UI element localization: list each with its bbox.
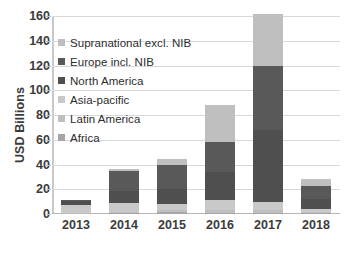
y-tick-mark bbox=[46, 115, 51, 116]
stacked-bar[interactable] bbox=[301, 179, 331, 214]
chart-legend: Supranational excl. NIBEurope incl. NIBN… bbox=[58, 34, 191, 146]
legend-swatch-icon bbox=[58, 96, 65, 103]
x-tick-label: 2014 bbox=[110, 218, 138, 232]
x-tick-label: 2017 bbox=[254, 218, 282, 232]
legend-label: Europe incl. NIB bbox=[70, 56, 154, 68]
bar-segment[interactable] bbox=[253, 202, 283, 211]
y-tick-mark bbox=[46, 16, 51, 17]
bar-segment[interactable] bbox=[301, 186, 331, 200]
y-tick-mark bbox=[46, 214, 51, 215]
legend-swatch-icon bbox=[58, 58, 65, 65]
bar-segment[interactable] bbox=[253, 213, 283, 214]
bar-segment[interactable] bbox=[205, 105, 235, 142]
bar-segment[interactable] bbox=[301, 213, 331, 214]
legend-swatch-icon bbox=[58, 39, 65, 46]
y-tick-mark bbox=[46, 189, 51, 190]
stacked-bar[interactable] bbox=[109, 169, 139, 214]
bar-segment[interactable] bbox=[301, 199, 331, 209]
bar-segment[interactable] bbox=[205, 172, 235, 200]
bar-segment[interactable] bbox=[157, 165, 187, 190]
x-axis-tick-labels: 201320142015201620172018 bbox=[52, 218, 340, 238]
x-tick-label: 2016 bbox=[206, 218, 234, 232]
legend-swatch-icon bbox=[58, 77, 65, 84]
bar-slot bbox=[292, 16, 340, 214]
bar-segment[interactable] bbox=[109, 191, 139, 203]
legend-item-1[interactable]: Europe incl. NIB bbox=[58, 53, 191, 70]
bar-segment[interactable] bbox=[205, 200, 235, 210]
legend-label: Latin America bbox=[70, 113, 140, 125]
legend-item-3[interactable]: Asia-pacific bbox=[58, 91, 191, 108]
legend-item-0[interactable]: Supranational excl. NIB bbox=[58, 34, 191, 51]
x-tick-label: 2018 bbox=[302, 218, 330, 232]
bar-segment[interactable] bbox=[109, 203, 139, 212]
legend-item-2[interactable]: North America bbox=[58, 72, 191, 89]
legend-item-5[interactable]: Africa bbox=[58, 129, 191, 146]
y-tick-mark bbox=[46, 90, 51, 91]
x-tick-label: 2013 bbox=[62, 218, 90, 232]
stacked-bar[interactable] bbox=[253, 14, 283, 214]
x-tick-label: 2015 bbox=[158, 218, 186, 232]
bar-segment[interactable] bbox=[61, 213, 91, 214]
y-tick-mark bbox=[46, 66, 51, 67]
y-tick-mark bbox=[46, 41, 51, 42]
bar-segment[interactable] bbox=[205, 213, 235, 214]
bar-segment[interactable] bbox=[109, 213, 139, 214]
legend-swatch-icon bbox=[58, 115, 65, 122]
bar-segment[interactable] bbox=[253, 66, 283, 130]
legend-label: Asia-pacific bbox=[70, 94, 129, 106]
bar-segment[interactable] bbox=[205, 142, 235, 172]
bar-segment[interactable] bbox=[109, 171, 139, 191]
bar-segment[interactable] bbox=[157, 189, 187, 204]
bar-segment[interactable] bbox=[61, 205, 91, 213]
legend-label: Supranational excl. NIB bbox=[70, 37, 191, 49]
bar-segment[interactable] bbox=[253, 14, 283, 66]
stacked-bar[interactable] bbox=[157, 159, 187, 214]
bar-segment[interactable] bbox=[157, 212, 187, 214]
legend-label: North America bbox=[70, 75, 144, 87]
stacked-bar[interactable] bbox=[61, 200, 91, 214]
stacked-bar[interactable] bbox=[205, 105, 235, 214]
bar-segment[interactable] bbox=[253, 130, 283, 202]
legend-label: Africa bbox=[70, 132, 100, 144]
y-tick-mark bbox=[46, 140, 51, 141]
legend-swatch-icon bbox=[58, 134, 65, 141]
bar-slot bbox=[244, 16, 292, 214]
bar-chart: USD Billions 020406080100120140160 20132… bbox=[0, 0, 353, 255]
legend-item-4[interactable]: Latin America bbox=[58, 110, 191, 127]
bar-slot bbox=[196, 16, 244, 214]
y-tick-mark bbox=[46, 165, 51, 166]
